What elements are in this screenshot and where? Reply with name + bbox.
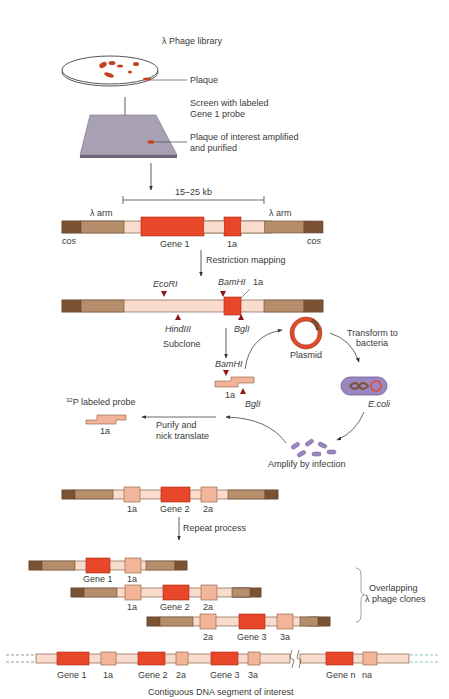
library-label: λ Phage library	[162, 36, 223, 46]
probe-label: 32P labeled probe	[66, 397, 136, 407]
clone2-map	[62, 487, 278, 502]
ecori-site-icon	[161, 291, 167, 297]
transform-label-line1: Transform to	[347, 328, 398, 338]
clone2-label-1a: 1a	[127, 504, 137, 514]
fragment-bgli-site-icon	[240, 388, 246, 394]
overlap-label-line1: Overlapping	[369, 583, 418, 593]
contig-na-label: na	[362, 670, 372, 680]
bamhi-label: BamHI	[218, 277, 246, 287]
plaque-label: Plaque	[190, 75, 218, 85]
overlap1-gene1-label: Gene 1	[83, 574, 113, 584]
fragment-bamhi-label: BamHI	[215, 359, 243, 369]
overlap-row-1	[29, 558, 187, 573]
hindiii-label: HindIII	[165, 324, 192, 334]
contig-genen-label: Gene n	[326, 670, 356, 680]
screen-label-line1: Screen with labeled	[190, 98, 269, 108]
overlap2-1a-label: 1a	[127, 602, 137, 612]
overlap2-2a-label: 2a	[203, 602, 213, 612]
repeat-process-label: Repeat process	[183, 523, 247, 533]
phage-particles-icon	[291, 438, 336, 457]
size-bracket	[123, 196, 264, 204]
contig-2a-label: 2a	[176, 670, 186, 680]
probe-text: P labeled probe	[73, 397, 136, 407]
hindiii-site-icon	[175, 314, 181, 320]
cos-right	[304, 221, 323, 233]
fragment-1a-label: 1a	[225, 390, 235, 400]
ecoli-label: E.coli	[368, 399, 391, 409]
arm-right	[264, 221, 304, 233]
size-label: 15–25 kb	[175, 187, 212, 197]
cos-left-label: cos	[62, 236, 77, 246]
marker-1a-block	[224, 217, 241, 236]
contig-gene3-label: Gene 3	[210, 670, 240, 680]
membrane	[80, 115, 177, 158]
marker-1a-block	[224, 297, 241, 315]
clone2-label-gene2: Gene 2	[160, 504, 190, 514]
overlap2-gene2-label: Gene 2	[160, 602, 190, 612]
transform-label-line2: bacteria	[356, 338, 388, 348]
cos-left	[62, 221, 81, 233]
contig-1a-label: 1a	[103, 670, 113, 680]
purified-label-line2: and purified	[190, 143, 237, 153]
probe-fragment	[86, 415, 126, 424]
arrow-to-plasmid	[245, 330, 282, 369]
overlap3-gene3-label: Gene 3	[237, 632, 267, 642]
contig-gene1-label: Gene 1	[57, 670, 87, 680]
gene1-label: Gene 1	[160, 239, 190, 249]
phage-library-diagram: λ Phage library Plaque Screen with label…	[0, 0, 449, 699]
contig-gene2-label: Gene 2	[138, 670, 168, 680]
restriction-map	[62, 297, 323, 315]
overlap3-3a-label: 3a	[280, 632, 290, 642]
clone2-label-2a: 2a	[203, 504, 213, 514]
gene-1-block	[141, 217, 204, 236]
purify-label-line2: nick translate	[156, 431, 209, 441]
marker-1a-label: 1a	[227, 239, 237, 249]
fragment-bgli-label: BglI	[245, 399, 261, 409]
contig-3a-label: 3a	[248, 670, 258, 680]
overlap1-1a-label: 1a	[127, 574, 137, 584]
purified-label-line1: Plaque of interest amplified	[190, 132, 299, 142]
subclone-label: Subclone	[163, 339, 201, 349]
plasmid-label: Plasmid	[290, 350, 322, 360]
ecori-label: EcoRI	[153, 279, 178, 289]
petri-dish	[62, 56, 158, 86]
bgli-label: BglI	[234, 324, 250, 334]
overlap-label-line2: λ phage clones	[365, 594, 426, 604]
arm-right-label: λ arm	[269, 208, 292, 218]
arm-left-label: λ arm	[90, 208, 113, 218]
overlap3-2a-label: 2a	[203, 632, 213, 642]
mapping-1a-label: 1a	[253, 277, 263, 287]
restriction-mapping-label: Restriction mapping	[206, 255, 286, 265]
arrow-from-amplify	[226, 417, 286, 443]
probe-1a-label: 1a	[100, 426, 110, 436]
plaque-of-interest	[148, 140, 155, 144]
arrow-to-amplify	[337, 412, 364, 440]
bamhi-site-icon	[220, 291, 226, 297]
contig-caption: Contiguous DNA segment of interest	[148, 687, 294, 697]
ecoli-icon	[341, 377, 387, 395]
amplify-label: Amplify by infection	[268, 459, 346, 469]
clone1-map	[62, 217, 323, 236]
break-icon	[290, 650, 301, 668]
purify-label-line1: Purify and	[156, 420, 197, 430]
marker-leader	[241, 289, 250, 298]
overlap-brace	[356, 568, 365, 622]
screen-label-line2: Gene 1 probe	[190, 109, 245, 119]
cos-right-label: cos	[307, 236, 322, 246]
contig-map	[36, 652, 409, 665]
subclone-fragment	[215, 377, 254, 387]
fragment-bamhi-site-icon	[223, 370, 229, 376]
plasmid-icon	[290, 317, 322, 349]
arm-left	[81, 221, 124, 233]
